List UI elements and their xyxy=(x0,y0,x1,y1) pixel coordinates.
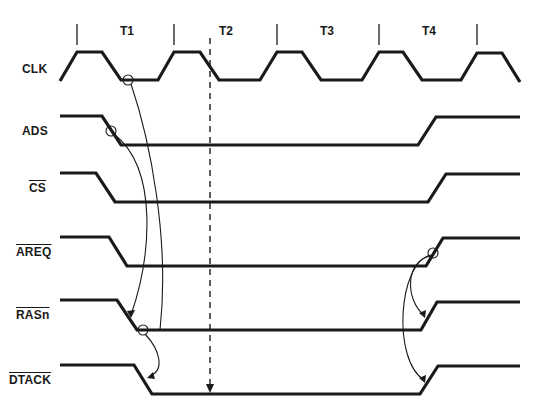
period-label-t3: T3 xyxy=(320,24,334,38)
period-label-t4: T4 xyxy=(422,24,436,38)
cs-waveform xyxy=(60,173,520,202)
arrow-ads-to-rasn xyxy=(114,134,147,315)
signal-label-areq: AREQ xyxy=(16,245,51,259)
signal-label-cs: CS xyxy=(29,181,46,195)
period-label-t1: T1 xyxy=(120,24,134,38)
period-label-t2: T2 xyxy=(219,24,233,38)
signal-label-ads: ADS xyxy=(22,124,48,138)
signal-label-clk: CLK xyxy=(22,62,47,76)
signal-label-dtack: DTACK xyxy=(9,373,51,387)
timing-diagram xyxy=(0,0,536,404)
signal-label-rasn: RASn xyxy=(16,308,49,322)
dtack-waveform xyxy=(60,365,520,394)
ads-waveform xyxy=(60,116,520,145)
clk-waveform xyxy=(60,52,520,82)
rasn-waveform xyxy=(60,300,520,330)
period-ticks xyxy=(77,24,477,45)
arrow-rasn-to-dtack xyxy=(145,334,159,376)
arrowhead-rasn-dtack xyxy=(147,372,155,379)
arrowhead-areq-dtack xyxy=(419,375,426,383)
areq-waveform xyxy=(60,237,520,266)
t2-marker-arrowhead xyxy=(206,384,214,393)
